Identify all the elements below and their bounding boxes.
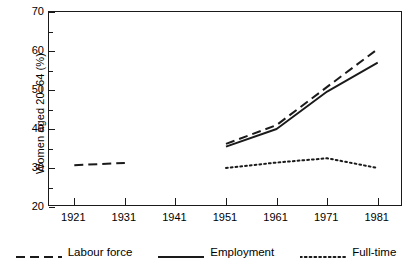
series-line-employment	[226, 63, 378, 147]
chart-figure: Women aged 20–64 (%) 203040506070 192119…	[0, 0, 412, 266]
y-tick-major	[49, 207, 55, 208]
y-tick-label: 20	[2, 201, 44, 212]
legend-label: Employment	[210, 247, 274, 259]
legend-swatch-solid	[158, 248, 204, 258]
y-tick-label: 70	[2, 6, 44, 17]
y-tick-major	[49, 129, 55, 130]
legend-item[interactable]: Employment	[158, 247, 274, 259]
x-tick	[277, 198, 278, 205]
legend-item[interactable]: Full-time	[300, 247, 396, 259]
y-tick-minor	[49, 188, 53, 189]
y-tick-label: 40	[2, 123, 44, 134]
legend-swatch-dotted	[300, 248, 346, 258]
x-tick	[175, 198, 176, 205]
y-tick-label: 60	[2, 45, 44, 56]
y-tick-minor	[49, 71, 53, 72]
y-tick-minor	[49, 32, 53, 33]
legend-label: Labour force	[68, 247, 133, 259]
y-tick-minor	[49, 110, 53, 111]
series-line-labour-force	[74, 163, 125, 165]
legend-label: Full-time	[352, 247, 396, 259]
y-tick-label: 30	[2, 162, 44, 173]
series-layer	[49, 12, 403, 207]
x-tick	[125, 198, 126, 205]
y-tick-major	[49, 51, 55, 52]
plot-area	[48, 11, 402, 206]
x-axis-tick-labels: 1921193119411951196119711981	[0, 212, 412, 228]
series-line-labour-force	[226, 49, 378, 144]
y-tick-major	[49, 12, 55, 13]
series-line-full-time	[226, 158, 378, 168]
y-tick-major	[49, 168, 55, 169]
x-tick	[74, 198, 75, 205]
legend-swatch-dashed	[16, 248, 62, 258]
x-tick	[378, 198, 379, 205]
x-tick	[327, 198, 328, 205]
x-tick	[226, 198, 227, 205]
x-tick-label: 1981	[347, 212, 407, 223]
y-tick-major	[49, 90, 55, 91]
y-tick-minor	[49, 149, 53, 150]
legend-item[interactable]: Labour force	[16, 247, 133, 259]
chart-legend: Labour forceEmploymentFull-time	[0, 243, 412, 263]
y-tick-label: 50	[2, 84, 44, 95]
